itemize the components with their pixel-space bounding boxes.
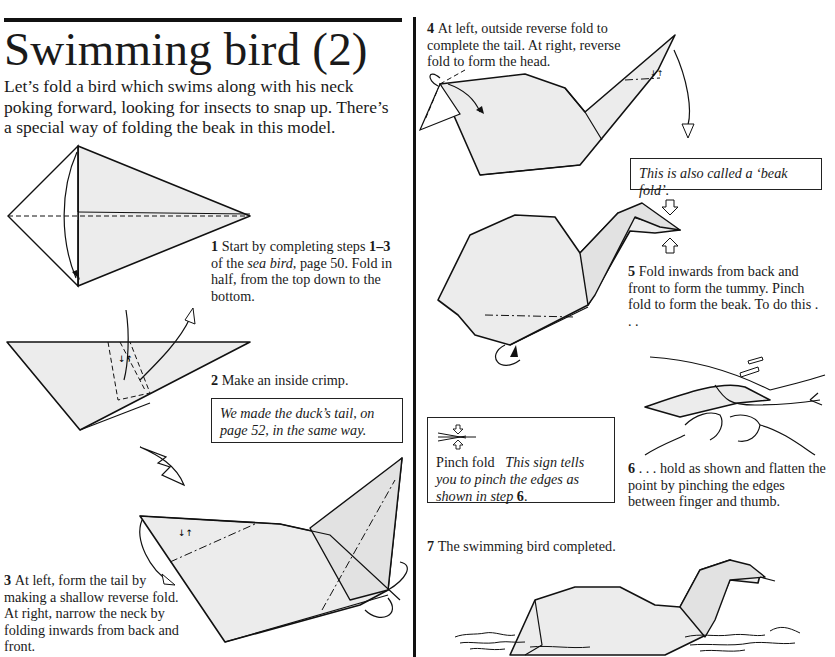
step-6-diagram: [640, 345, 830, 455]
push-arrow-down-icon: [662, 200, 678, 215]
step-3-text: 3 At left, form the tail by making a sha…: [4, 572, 182, 655]
step-5-text: 5 Fold inwards from back and front to fo…: [628, 263, 823, 329]
step-2-text: 2 Make an inside crimp.: [211, 372, 401, 389]
svg-text:↓↑: ↓↑: [650, 69, 663, 78]
beak-fold-note: This is also called a ‘beak fold’.: [630, 158, 822, 190]
svg-text:↓↑: ↓↑: [118, 354, 133, 364]
pinch-fold-note: Pinch fold This sign tells you to pinch …: [427, 417, 615, 503]
intro-paragraph: Let’s fold a bird which swims along with…: [4, 76, 399, 138]
pinch-fold-icon: [436, 424, 480, 450]
pinch-fold-label: Pinch fold: [436, 454, 495, 470]
page-title: Swimming bird (2): [4, 23, 368, 75]
step-1-text: 1 Start by completing steps 1–3 of the s…: [211, 238, 401, 304]
push-arrow-up-icon: [662, 238, 678, 253]
step-6-text: 6 . . . hold as shown and flatten the po…: [628, 460, 828, 510]
svg-text:↓↑: ↓↑: [178, 528, 193, 538]
top-rule: [4, 18, 402, 22]
step-7-diagram: [430, 525, 810, 657]
duck-tail-note: We made the duck’s tail, on page 52, in …: [211, 398, 403, 443]
